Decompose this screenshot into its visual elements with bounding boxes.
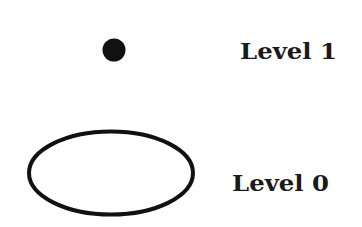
level-0-ellipse [29, 132, 193, 215]
level-0-label: Level 0 [232, 170, 329, 196]
level-1-dot [103, 39, 126, 62]
level-diagram: Level 1 Level 0 [0, 0, 362, 227]
level-1-label: Level 1 [240, 38, 337, 64]
